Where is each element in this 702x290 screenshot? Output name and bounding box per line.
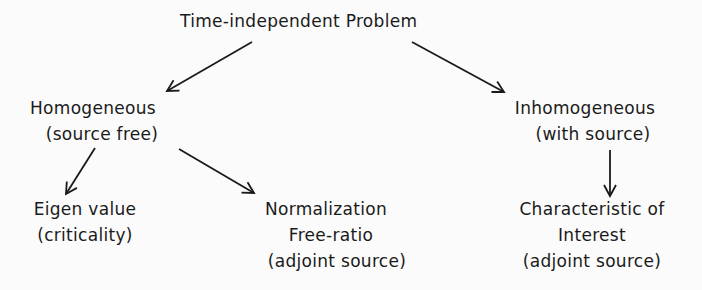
arrow-homogeneous-to-eigen — [66, 148, 95, 194]
node-characteristic-line-3: (adjoint source) — [492, 248, 692, 274]
node-normalization-line-1: Normalization — [244, 196, 430, 222]
arrow-root-to-inhomogeneous — [412, 42, 504, 92]
node-homogeneous: Homogeneous (source free) — [8, 95, 178, 147]
node-characteristic: Characteristic of Interest (adjoint sour… — [492, 196, 692, 274]
node-eigen: Eigen value (criticality) — [14, 196, 156, 248]
node-homogeneous-line-1: Homogeneous — [8, 95, 178, 121]
node-homogeneous-line-2: (source free) — [8, 121, 178, 147]
node-eigen-line-2: (criticality) — [14, 222, 156, 248]
node-characteristic-line-2: Interest — [492, 222, 692, 248]
node-characteristic-line-1: Characteristic of — [492, 196, 692, 222]
node-inhomogeneous-line-1: Inhomogeneous — [490, 95, 680, 121]
node-root: Time-independent Problem — [180, 8, 408, 34]
node-normalization-line-2: Free-ratio — [244, 222, 430, 248]
arrow-homogeneous-to-normalization — [179, 149, 254, 193]
node-inhomogeneous: Inhomogeneous (with source) — [490, 95, 680, 147]
node-eigen-line-1: Eigen value — [14, 196, 156, 222]
node-normalization-line-3: (adjoint source) — [244, 248, 430, 274]
node-root-line-1: Time-independent Problem — [180, 8, 408, 34]
node-normalization: Normalization Free-ratio (adjoint source… — [244, 196, 430, 274]
node-inhomogeneous-line-2: (with source) — [490, 121, 680, 147]
arrow-root-to-homogeneous — [167, 42, 252, 91]
